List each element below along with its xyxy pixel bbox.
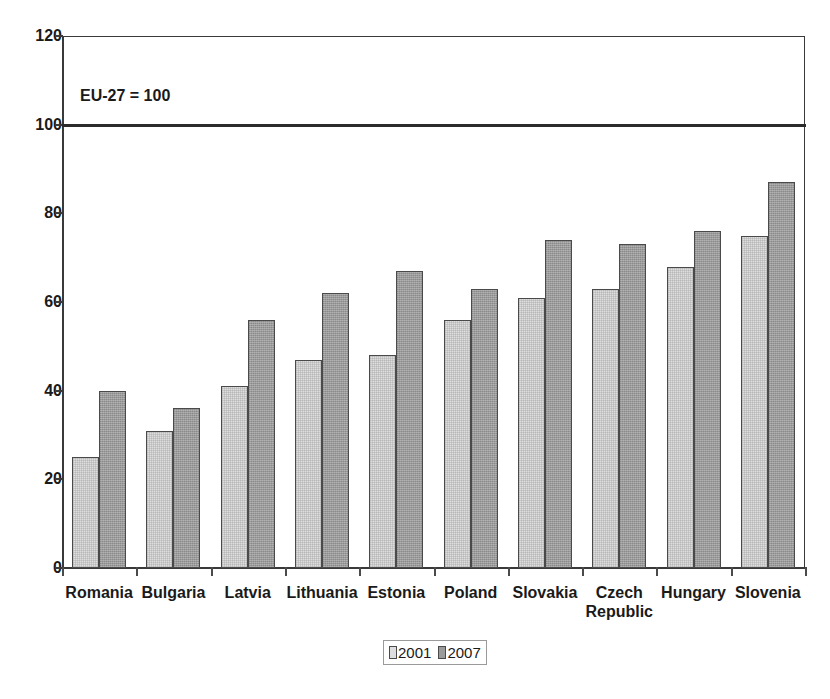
y-tick: 60 — [0, 294, 62, 310]
bar-2001-bulgaria — [146, 431, 173, 568]
y-tick-label: 80 — [10, 205, 62, 221]
bar-2001-lithuania — [295, 360, 322, 568]
bar-group — [656, 36, 730, 568]
bar-2001-latvia — [221, 386, 248, 568]
y-tick-label: 120 — [10, 28, 62, 44]
bar-group — [285, 36, 359, 568]
x-tick-mark — [285, 567, 287, 576]
y-tick-label: 0 — [10, 560, 62, 576]
x-axis-label: Slovenia — [721, 583, 815, 602]
x-tick-mark — [136, 567, 138, 576]
legend-item-2007: 2007 — [438, 644, 480, 661]
legend-label: 2007 — [447, 644, 480, 661]
y-tick: 20 — [0, 471, 62, 487]
x-tick-mark — [582, 567, 584, 576]
x-axis-label-line: Romania — [65, 584, 133, 601]
bar-2001-estonia — [369, 355, 396, 568]
x-axis-label-line: Republic — [585, 603, 653, 620]
light-grey-swatch — [389, 646, 397, 659]
bar-2001-slovenia — [741, 236, 768, 569]
bar-group — [508, 36, 582, 568]
x-tick-mark — [656, 567, 658, 576]
bar-2007-hungary — [694, 231, 721, 568]
x-tick-mark — [211, 567, 213, 576]
x-axis-label-line: Slovakia — [512, 584, 577, 601]
x-tick-mark — [62, 567, 64, 576]
x-tick-mark — [731, 567, 733, 576]
legend-item-2001: 2001 — [389, 644, 431, 661]
bar-group — [211, 36, 285, 568]
x-axis-label-line: Latvia — [225, 584, 271, 601]
bar-2007-poland — [471, 289, 498, 568]
bar-2001-poland — [444, 320, 471, 568]
bar-2007-bulgaria — [173, 408, 200, 568]
bar-group — [731, 36, 805, 568]
y-tick: 0 — [0, 560, 62, 576]
x-axis-label-line: Bulgaria — [141, 584, 205, 601]
bar-2001-hungary — [667, 267, 694, 568]
dark-grey-swatch — [438, 646, 446, 659]
bar-2007-romania — [99, 391, 126, 568]
y-tick: 100 — [0, 117, 62, 133]
x-axis-label-line: Lithuania — [286, 584, 357, 601]
bar-2007-estonia — [396, 271, 423, 568]
bars-layer — [62, 36, 805, 568]
x-axis-label-line: Estonia — [367, 584, 425, 601]
bar-2001-romania — [72, 457, 99, 568]
legend-label: 2001 — [398, 644, 431, 661]
x-axis-label-line: Slovenia — [735, 584, 801, 601]
y-tick: 80 — [0, 205, 62, 221]
x-axis-label-line: Czech — [596, 584, 643, 601]
bar-group — [359, 36, 433, 568]
x-tick-mark — [805, 567, 807, 576]
x-axis-label-line: Poland — [444, 584, 497, 601]
y-tick: 120 — [0, 28, 62, 44]
bar-group — [434, 36, 508, 568]
y-tick-label: 20 — [10, 471, 62, 487]
bar-2001-slovakia — [518, 298, 545, 568]
bar-group — [136, 36, 210, 568]
bar-group — [582, 36, 656, 568]
bar-2007-slovenia — [768, 182, 795, 568]
y-tick: 40 — [0, 383, 62, 399]
bar-2001-czech-republic — [592, 289, 619, 568]
x-tick-mark — [434, 567, 436, 576]
bar-group — [62, 36, 136, 568]
bar-2007-czech-republic — [619, 244, 646, 568]
y-tick-label: 40 — [10, 383, 62, 399]
chart-legend: 20012007 — [383, 640, 487, 665]
x-axis-label-line: Hungary — [661, 584, 726, 601]
y-tick-label: 100 — [10, 117, 62, 133]
bar-2007-slovakia — [545, 240, 572, 568]
bar-2007-latvia — [248, 320, 275, 568]
bar-chart: 020406080100120 EU-27 = 100 RomaniaBulga… — [0, 0, 830, 699]
x-tick-mark — [508, 567, 510, 576]
y-tick-label: 60 — [10, 294, 62, 310]
x-tick-mark — [359, 567, 361, 576]
bar-2007-lithuania — [322, 293, 349, 568]
